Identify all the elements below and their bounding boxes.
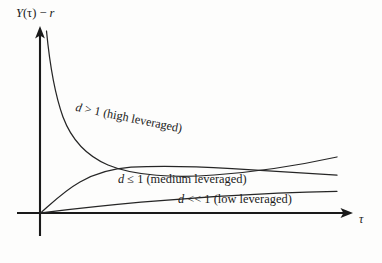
curve-label-low-leveraged: d << 1 (low leveraged)	[178, 193, 292, 205]
curve-label-medium-leveraged: d ≤ 1 (medium leveraged)	[118, 173, 247, 185]
yield-curve-figure: Y(τ) − r τ d > 1 (high leveraged) d ≤ 1 …	[0, 0, 382, 263]
y-axis-label: Y(τ) − r	[16, 7, 54, 20]
x-axis-label: τ	[359, 213, 363, 225]
plot-canvas	[0, 0, 382, 263]
